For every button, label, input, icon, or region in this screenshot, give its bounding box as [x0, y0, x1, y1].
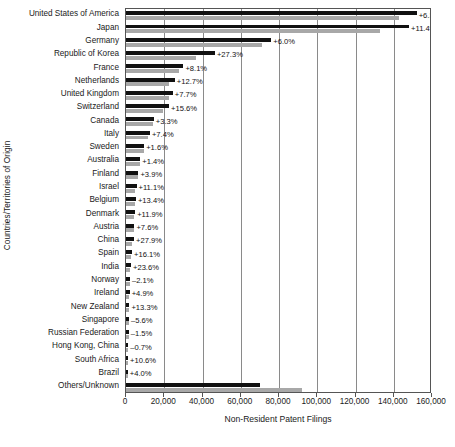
x-tick-label: 20,000: [151, 398, 176, 406]
bar-current-year: [126, 317, 129, 321]
category-label: India: [101, 263, 119, 271]
bar-current-year: [126, 157, 140, 161]
bar-group: +4.0%: [126, 367, 430, 380]
growth-percent-label: +27.9%: [136, 237, 162, 245]
growth-percent-label: –2.1%: [132, 277, 154, 285]
bar-group: +3.3%: [126, 115, 430, 128]
bar-previous-year: [126, 56, 196, 60]
x-tick-label: 40,000: [189, 398, 214, 406]
category-label: Italy: [104, 130, 119, 138]
bar-current-year: [126, 330, 129, 334]
bar-group: +11.4%: [126, 22, 430, 35]
growth-percent-label: –5.6%: [131, 317, 153, 325]
bar-previous-year: [126, 29, 380, 33]
growth-percent-label: +6.3%: [419, 12, 431, 20]
patent-filings-bar-chart: Countries/Territories of Origin United S…: [0, 0, 455, 447]
bar-previous-year: [126, 82, 169, 86]
category-label: Others/Unknown: [58, 382, 119, 390]
bar-group: –1.5%: [126, 328, 430, 341]
growth-percent-label: +11.9%: [137, 211, 162, 219]
category-label: Australia: [87, 156, 119, 164]
growth-percent-label: –0.7%: [130, 344, 152, 352]
x-axis-title: Non-Resident Patent Filings: [125, 414, 431, 424]
category-label: Finland: [92, 170, 119, 178]
growth-percent-label: +7.7%: [175, 91, 197, 99]
bar-previous-year: [126, 136, 148, 140]
bar-group: +6.3%: [126, 9, 430, 22]
bar-group: +23.6%: [126, 261, 430, 274]
bar-previous-year: [126, 16, 399, 20]
bar-current-year: [126, 91, 173, 95]
bar-group: +11.1%: [126, 182, 430, 195]
bar-previous-year: [126, 388, 302, 392]
bar-group: +10.6%: [126, 354, 430, 367]
x-tick-label: 140,000: [378, 398, 408, 406]
growth-percent-label: +7.4%: [152, 131, 174, 139]
growth-percent-label: +13.4%: [138, 197, 164, 205]
growth-percent-label: –1.5%: [131, 330, 153, 338]
category-label: Israel: [99, 183, 119, 191]
bar-previous-year: [126, 348, 128, 352]
bar-group: +27.9%: [126, 235, 430, 248]
category-label: United States of America: [29, 10, 119, 18]
category-label: New Zealand: [71, 303, 119, 311]
plot-area: +6.3%+11.4%+6.0%+27.3%+8.1%+12.7%+7.7%+1…: [125, 8, 431, 393]
bar-previous-year: [126, 228, 134, 232]
bar-current-year: [126, 78, 175, 82]
x-tick-label: 80,000: [265, 398, 290, 406]
bar-current-year: [126, 117, 154, 121]
bar-previous-year: [126, 321, 129, 325]
bar-current-year: [126, 171, 138, 175]
x-tick-label: 0: [123, 398, 128, 406]
category-label: Denmark: [86, 210, 119, 218]
bar-previous-year: [126, 202, 135, 206]
bar-previous-year: [126, 215, 134, 219]
bar-previous-year: [126, 335, 129, 339]
bar-previous-year: [126, 109, 163, 113]
bar-group: +12.7%: [126, 75, 430, 88]
category-label: Ireland: [94, 289, 119, 297]
bar-previous-year: [126, 361, 128, 365]
bars-layer: +6.3%+11.4%+6.0%+27.3%+8.1%+12.7%+7.7%+1…: [126, 9, 430, 392]
category-labels: United States of AmericaJapanGermanyRepu…: [14, 8, 122, 393]
bar-group: +11.9%: [126, 208, 430, 221]
bar-group: +8.1%: [126, 62, 430, 75]
category-label: Norway: [91, 276, 119, 284]
category-label: Canada: [90, 117, 119, 125]
bar-group: +13.4%: [126, 195, 430, 208]
category-label: Netherlands: [75, 77, 119, 85]
bar-previous-year: [126, 242, 132, 246]
bar-group: –0.7%: [126, 341, 430, 354]
bar-current-year: [126, 64, 183, 68]
bar-current-year: [126, 356, 128, 360]
bar-group: +6.0%: [126, 36, 430, 49]
bar-current-year: [126, 224, 134, 228]
growth-percent-label: +27.3%: [217, 51, 243, 59]
bar-current-year: [126, 343, 128, 347]
bar-current-year: [126, 250, 132, 254]
growth-percent-label: +6.0%: [273, 38, 295, 46]
bar-group: +1.6%: [126, 142, 430, 155]
bar-group: +7.4%: [126, 128, 430, 141]
bar-current-year: [126, 38, 271, 42]
growth-percent-label: +4.9%: [132, 290, 154, 298]
growth-percent-label: +3.9%: [140, 171, 162, 179]
category-label: Sweden: [89, 143, 119, 151]
growth-percent-label: +3.3%: [156, 118, 178, 126]
bar-current-year: [126, 263, 131, 267]
growth-percent-label: +1.4%: [142, 158, 164, 166]
category-label: Hong Kong, China: [52, 342, 119, 350]
category-label: Russian Federation: [48, 329, 119, 337]
bar-current-year: [126, 197, 136, 201]
bar-current-year: [126, 51, 215, 55]
bar-previous-year: [126, 96, 169, 100]
x-axis-ticks: 020,00040,00060,00080,000100,000120,0001…: [125, 393, 431, 413]
bar-current-year: [126, 383, 260, 387]
bar-current-year: [126, 104, 169, 108]
bar-current-year: [126, 11, 417, 15]
growth-percent-label: +23.6%: [133, 264, 159, 272]
bar-previous-year: [126, 308, 129, 312]
bar-group: +27.3%: [126, 49, 430, 62]
category-label: Switzerland: [77, 103, 119, 111]
bar-group: +1.4%: [126, 155, 430, 168]
